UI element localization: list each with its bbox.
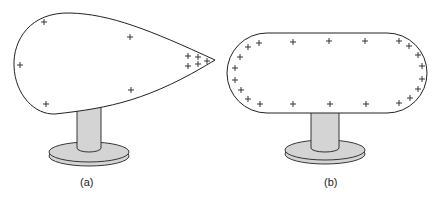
stand-b — [285, 110, 365, 164]
panel-a-label: (a) — [80, 176, 93, 188]
panel-b-label: (b) — [324, 176, 337, 188]
panel-b — [227, 33, 427, 164]
teardrop-conductor — [14, 13, 215, 114]
diagram-svg — [0, 0, 441, 203]
panel-a — [14, 13, 215, 166]
figure: (a) (b) — [0, 0, 441, 203]
capsule-conductor — [227, 33, 427, 113]
